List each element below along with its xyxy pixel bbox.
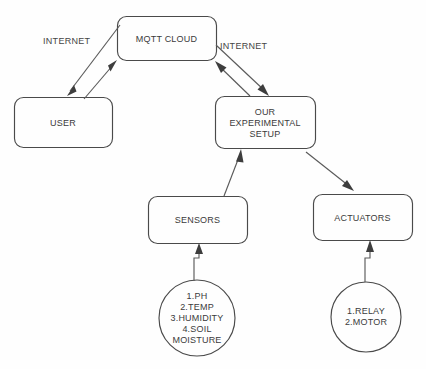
- edge-sensors-to-setup: [224, 149, 244, 196]
- node-shape-user: [15, 98, 113, 148]
- node-shape-sensors: [149, 197, 248, 244]
- diagram-graphics: [0, 0, 426, 369]
- edge-label-internet-right: INTERNET: [220, 41, 267, 51]
- edge-sensor-list-to-sensors: [194, 243, 203, 281]
- node-shape-actuators: [314, 195, 413, 241]
- edge-setup-to-mqtt-cloud: [215, 61, 250, 96]
- edge-actuator-list-to-actuators: [365, 240, 374, 282]
- diagram-canvas: MQTT CLOUD USER OUR EXPERIMENTAL SETUP S…: [0, 0, 426, 369]
- node-shape-actuator-list: [331, 282, 401, 352]
- edge-label-internet-left: INTERNET: [43, 36, 90, 46]
- edge-setup-to-actuators: [306, 152, 354, 191]
- node-shape-sensor-list: [159, 280, 235, 356]
- node-shape-experimental-setup: [216, 97, 316, 149]
- node-shape-mqtt-cloud: [118, 17, 217, 61]
